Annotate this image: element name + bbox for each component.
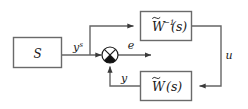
signal-ys-superscript: s [80, 41, 84, 49]
w-inverse-block: W −1 (s) [141, 12, 192, 41]
w-arg: (s) [166, 79, 182, 94]
block-diagram: S W −1 (s) W (s) [0, 0, 248, 109]
w-block: W (s) [141, 72, 192, 101]
signal-label-ys: y s [72, 41, 84, 55]
signal-label-y: y [120, 72, 128, 85]
w-block-label: W (s) [152, 77, 182, 94]
w-base: W [152, 79, 166, 94]
plant-block-label: S [33, 47, 41, 61]
plant-block: S [14, 38, 62, 68]
block-diagram-canvas: S W −1 (s) W (s) [0, 0, 248, 109]
signal-label-e: e [128, 39, 135, 52]
w-inverse-arg: (s) [171, 19, 187, 34]
signal-label-u: u [225, 49, 232, 62]
summing-junction [102, 47, 118, 63]
wire-w-inverse-to-w [192, 26, 221, 86]
